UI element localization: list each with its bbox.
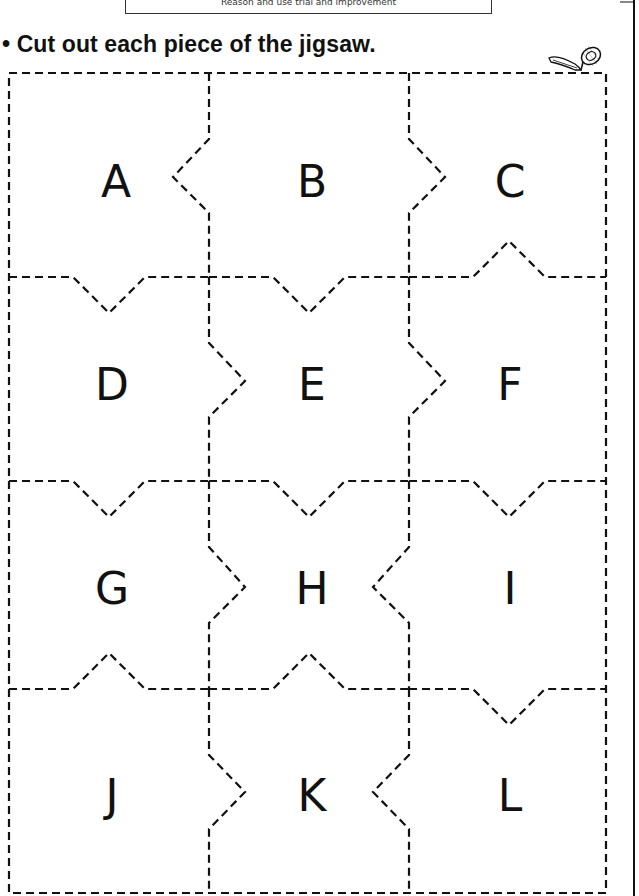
jigsaw-piece-d: D xyxy=(72,363,152,407)
jigsaw-cut-lines xyxy=(0,0,639,896)
jigsaw-piece-j: J xyxy=(72,774,152,818)
jigsaw-piece-a: A xyxy=(76,160,156,204)
jigsaw-piece-i: I xyxy=(470,567,550,611)
jigsaw-piece-b: B xyxy=(272,160,352,204)
jigsaw-piece-e: E xyxy=(272,363,352,407)
jigsaw-piece-l: L xyxy=(470,774,550,818)
jigsaw-piece-h: H xyxy=(272,567,352,611)
jigsaw-piece-g: G xyxy=(72,567,152,611)
jigsaw-piece-k: K xyxy=(272,774,352,818)
jigsaw-piece-f: F xyxy=(470,363,550,407)
jigsaw-piece-c: C xyxy=(470,160,550,204)
